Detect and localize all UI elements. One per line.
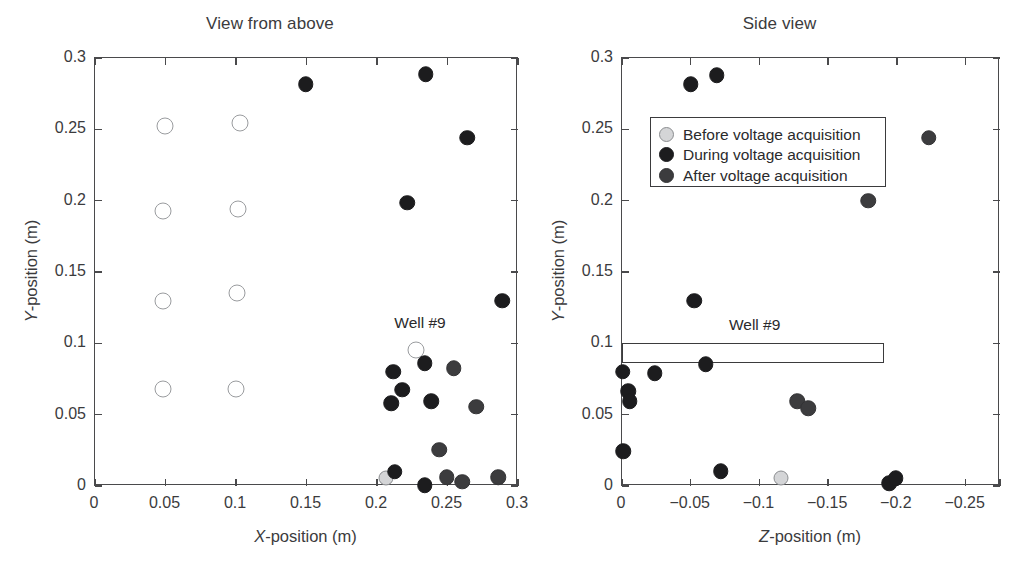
y-tick-label: 0.2	[561, 191, 613, 209]
y-tick-label: 0.3	[34, 48, 86, 66]
y-tick-label: 0	[34, 476, 86, 494]
y-tick-label: 0.1	[34, 333, 86, 351]
y-tick-right	[511, 129, 518, 130]
x-tick-top	[447, 58, 448, 65]
data-point-after	[921, 130, 937, 146]
data-point-during	[417, 356, 433, 372]
data-point-after	[801, 400, 817, 416]
x-axis-title: X-position (m)	[254, 527, 357, 546]
y-tick-right	[993, 200, 1000, 201]
x-tick-top	[517, 58, 518, 65]
x-tick-label: 0.15	[290, 494, 321, 512]
y-tick-label: 0.2	[34, 191, 86, 209]
data-point-during	[417, 478, 433, 494]
data-point-after	[491, 470, 507, 486]
x-tick-top	[235, 58, 236, 65]
data-point-during	[622, 393, 638, 409]
well-9-outline	[622, 343, 884, 363]
x-tick	[827, 479, 828, 486]
x-tick	[965, 479, 966, 486]
y-tick-right	[511, 200, 518, 201]
x-tick-top	[759, 58, 760, 65]
x-tick-label: 0.1	[224, 494, 246, 512]
data-point-during	[709, 67, 725, 83]
y-tick-right	[511, 485, 518, 486]
x-tick-top	[965, 58, 966, 65]
x-tick-label: 0.2	[365, 494, 387, 512]
x-tick-label: −0.05	[669, 494, 709, 512]
data-point-before	[773, 471, 788, 486]
data-point-during	[683, 77, 699, 93]
annotation-well-label: Well #9	[394, 314, 445, 332]
x-tick-label: 0.05	[149, 494, 180, 512]
data-point-during	[385, 364, 401, 380]
y-tick	[622, 200, 629, 201]
y-tick-label: 0.15	[34, 262, 86, 280]
x-tick-label: 0	[617, 494, 626, 512]
y-tick	[95, 271, 102, 272]
panel-side-view: Side view Well #9 0−0.05−0.1−0.15−0.2−0.…	[540, 0, 1019, 569]
x-tick	[376, 479, 377, 486]
y-tick-right	[993, 485, 1000, 486]
y-tick-right	[511, 414, 518, 415]
y-tick-right	[993, 57, 1000, 58]
y-tick-label: 0.25	[34, 119, 86, 137]
y-tick-right	[993, 271, 1000, 272]
data-point-open	[156, 117, 173, 134]
data-point-during	[615, 364, 631, 380]
data-point-during	[395, 382, 411, 398]
data-point-after	[860, 193, 876, 209]
y-tick	[622, 129, 629, 130]
data-point-during	[424, 393, 440, 409]
y-tick	[95, 129, 102, 130]
legend-row: After voltage acquisition	[659, 165, 875, 186]
data-point-during	[698, 356, 714, 372]
data-point-open	[231, 114, 248, 131]
data-point-open	[228, 284, 245, 301]
y-tick-label: 0	[561, 476, 613, 494]
legend-label: During voltage acquisition	[683, 147, 861, 163]
x-tick-top	[94, 58, 95, 65]
data-point-during	[647, 366, 663, 382]
x-axis-title: Z-position (m)	[759, 527, 861, 546]
data-point-open	[230, 200, 247, 217]
x-tick	[235, 479, 236, 486]
y-tick	[95, 343, 102, 344]
data-point-open	[155, 380, 172, 397]
data-point-open	[154, 292, 171, 309]
x-tick-top	[165, 58, 166, 65]
x-tick-label: 0	[90, 494, 99, 512]
data-point-during	[495, 293, 511, 309]
x-tick-label: 0.3	[506, 494, 528, 512]
figure-scatter-pair: View from above Well #9 00.050.10.150.20…	[0, 0, 1019, 569]
x-tick-top	[896, 58, 897, 65]
annotation-well-label: Well #9	[729, 316, 780, 334]
x-tick-top	[827, 58, 828, 65]
x-tick-top	[621, 58, 622, 65]
legend-label: Before voltage acquisition	[683, 127, 861, 143]
data-point-during	[383, 396, 399, 412]
y-axis-title: Y-position (m)	[549, 220, 568, 323]
y-tick	[622, 414, 629, 415]
panel-view-from-above: View from above Well #9 00.050.10.150.20…	[0, 0, 540, 569]
legend-row: Before voltage acquisition	[659, 124, 875, 145]
y-tick	[622, 485, 629, 486]
data-point-during	[418, 67, 434, 83]
data-point-after	[455, 474, 471, 490]
plot-area-view-from-above: Well #9	[94, 57, 517, 485]
x-tick-label: 0.25	[431, 494, 462, 512]
data-point-during	[686, 293, 702, 309]
x-tick-label: −0.2	[880, 494, 912, 512]
data-point-during	[298, 77, 314, 93]
y-tick	[95, 200, 102, 201]
legend-row: During voltage acquisition	[659, 145, 875, 166]
data-point-after	[446, 361, 462, 377]
y-tick-label: 0.15	[561, 262, 613, 280]
y-tick	[95, 414, 102, 415]
x-tick-label: −0.25	[944, 494, 984, 512]
y-tick-label: 0.25	[561, 119, 613, 137]
legend-marker-during-icon	[659, 147, 674, 162]
data-point-after	[439, 470, 455, 486]
x-tick	[165, 479, 166, 486]
x-tick-label: −0.15	[807, 494, 847, 512]
